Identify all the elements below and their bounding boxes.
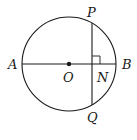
label-a: A: [7, 57, 17, 72]
geometry-diagram: A B O N P Q: [0, 0, 137, 140]
label-b: B: [121, 57, 132, 72]
center-point-o: [67, 62, 71, 66]
label-n: N: [96, 70, 109, 85]
label-p: P: [86, 5, 96, 20]
label-q: Q: [87, 110, 98, 125]
right-angle-marker: [92, 56, 100, 64]
label-o: O: [63, 70, 74, 85]
